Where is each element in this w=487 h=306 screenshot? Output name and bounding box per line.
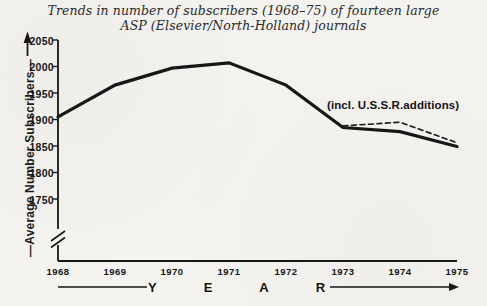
series-line-subscribers — [58, 63, 457, 147]
figure-subscribers-trend-chart: Trends in number of subscribers (1968–75… — [0, 0, 487, 306]
plot-area — [0, 0, 487, 306]
y-axis-arrow-icon — [24, 32, 32, 44]
x-axis-arrow-icon — [449, 283, 459, 291]
